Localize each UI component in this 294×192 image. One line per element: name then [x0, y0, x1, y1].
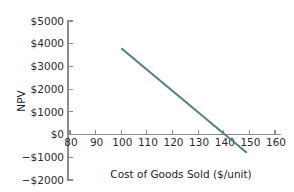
y-axis-spine — [68, 21, 72, 180]
x-tick-label-130: 130 — [189, 136, 209, 148]
x-tick-label-110: 110 — [138, 136, 158, 148]
x-axis-title: Cost of Goods Sold ($/unit) — [110, 168, 251, 180]
y-tick-label-5000: $5000 — [31, 15, 64, 27]
y-tick-label-4000: $4000 — [31, 37, 64, 49]
y-tick-label-2000: $2000 — [31, 83, 64, 95]
y-axis-title: NPV — [15, 90, 27, 112]
x-tick-label-160: 160 — [266, 136, 286, 148]
x-tick-label-100: 100 — [112, 136, 132, 148]
x-tick-label-80: 80 — [64, 136, 77, 148]
y-tick-label-3000: $3000 — [31, 60, 64, 72]
y-tick-label-0: $0 — [51, 128, 64, 140]
y-axis-tick-labels: $5000 $4000 $3000 $2000 $1000 $0 −$1000 … — [22, 15, 64, 186]
y-tick-label-neg1000: −$1000 — [22, 151, 64, 163]
chart-canvas: $5000 $4000 $3000 $2000 $1000 $0 −$1000 … — [0, 0, 294, 192]
x-axis-tick-labels: 80 90 100 110 120 130 140 150 160 — [64, 136, 286, 148]
x-axis-ticks — [70, 130, 275, 135]
x-tick-label-140: 140 — [215, 136, 235, 148]
x-tick-label-120: 120 — [163, 136, 183, 148]
y-tick-label-neg2000: −$2000 — [22, 174, 64, 186]
npv-sensitivity-chart: $5000 $4000 $3000 $2000 $1000 $0 −$1000 … — [0, 0, 294, 192]
y-axis-ticks — [68, 21, 73, 180]
x-tick-label-150: 150 — [240, 136, 260, 148]
x-tick-label-90: 90 — [90, 136, 103, 148]
y-tick-label-1000: $1000 — [31, 106, 64, 118]
